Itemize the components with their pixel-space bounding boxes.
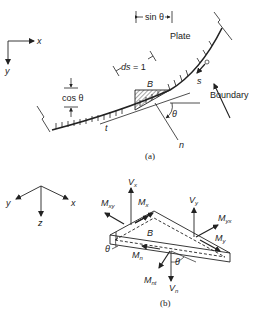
vy-label: Vy — [189, 195, 199, 206]
x-axis-label-b: x — [70, 198, 76, 208]
figure-a: x y sin θ Plate — [4, 11, 249, 161]
cos-theta-label: cos θ — [62, 93, 84, 103]
right-break-line — [214, 12, 232, 40]
sin-theta-label: sin θ — [145, 12, 164, 22]
axes-b — [16, 186, 68, 216]
caption-b: (b) — [160, 298, 171, 308]
plate-boundary-diagram: x y sin θ Plate — [0, 0, 255, 313]
plate-label: Plate — [170, 31, 191, 41]
boundary-label: Boundary — [210, 90, 249, 100]
y-axis-label: y — [4, 66, 10, 76]
theta-label-right: θ — [175, 257, 180, 267]
point-marker — [205, 60, 209, 64]
x-axis-label: x — [36, 36, 42, 46]
figure-b: y x z B Vx Mx Mxy — [5, 177, 233, 308]
theta-label-left: θ — [105, 244, 110, 254]
mx-label: Mx — [138, 197, 150, 208]
caption-a: (a) — [145, 151, 155, 161]
ds-label: ds = 1 — [121, 62, 146, 72]
theta-leader-left — [112, 246, 118, 249]
left-break-line — [37, 106, 50, 132]
mxy-label: Mxy — [101, 198, 116, 209]
myx-label: Myx — [218, 213, 233, 224]
boundary-hatching — [56, 41, 212, 129]
mnt-arrow — [159, 251, 170, 268]
mx-double-arrow — [135, 216, 148, 223]
mnt-label: Mnt — [144, 275, 157, 286]
mxy-arrow — [105, 213, 124, 224]
axes-a — [8, 41, 34, 64]
t-label: t — [105, 123, 108, 133]
element-b-prism — [110, 211, 230, 262]
element-b-triangle — [135, 90, 170, 110]
mn-label: Mn — [132, 250, 144, 261]
n-label: n — [179, 140, 184, 150]
b-label-prism: B — [147, 228, 153, 238]
s-label: s — [197, 76, 202, 86]
y-axis-label-b: y — [5, 198, 11, 208]
b-label: B — [147, 79, 153, 89]
z-axis-label-b: z — [37, 218, 43, 228]
vx-label: Vx — [128, 177, 138, 188]
theta-label-a: θ — [172, 109, 177, 119]
vn-label: Vn — [169, 283, 179, 294]
my-label: My — [215, 233, 227, 244]
